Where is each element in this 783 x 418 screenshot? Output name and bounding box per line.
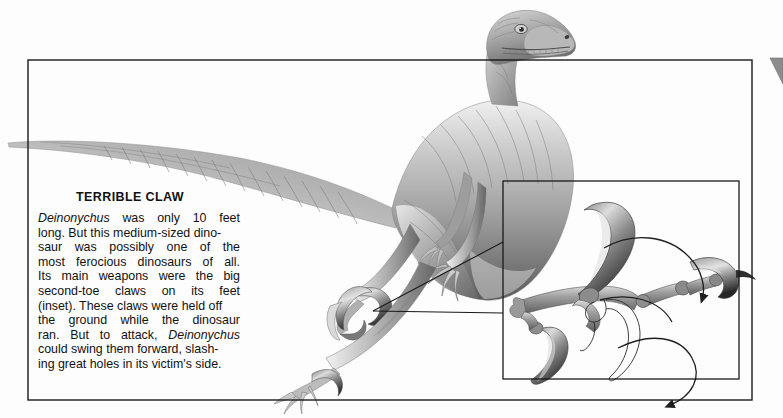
page-edge-marker-layer: [0, 0, 783, 418]
illustration-page: TERRIBLE CLAW Deinonychuswasonly10feet l…: [0, 0, 783, 418]
page-corner-marker: [770, 58, 783, 84]
